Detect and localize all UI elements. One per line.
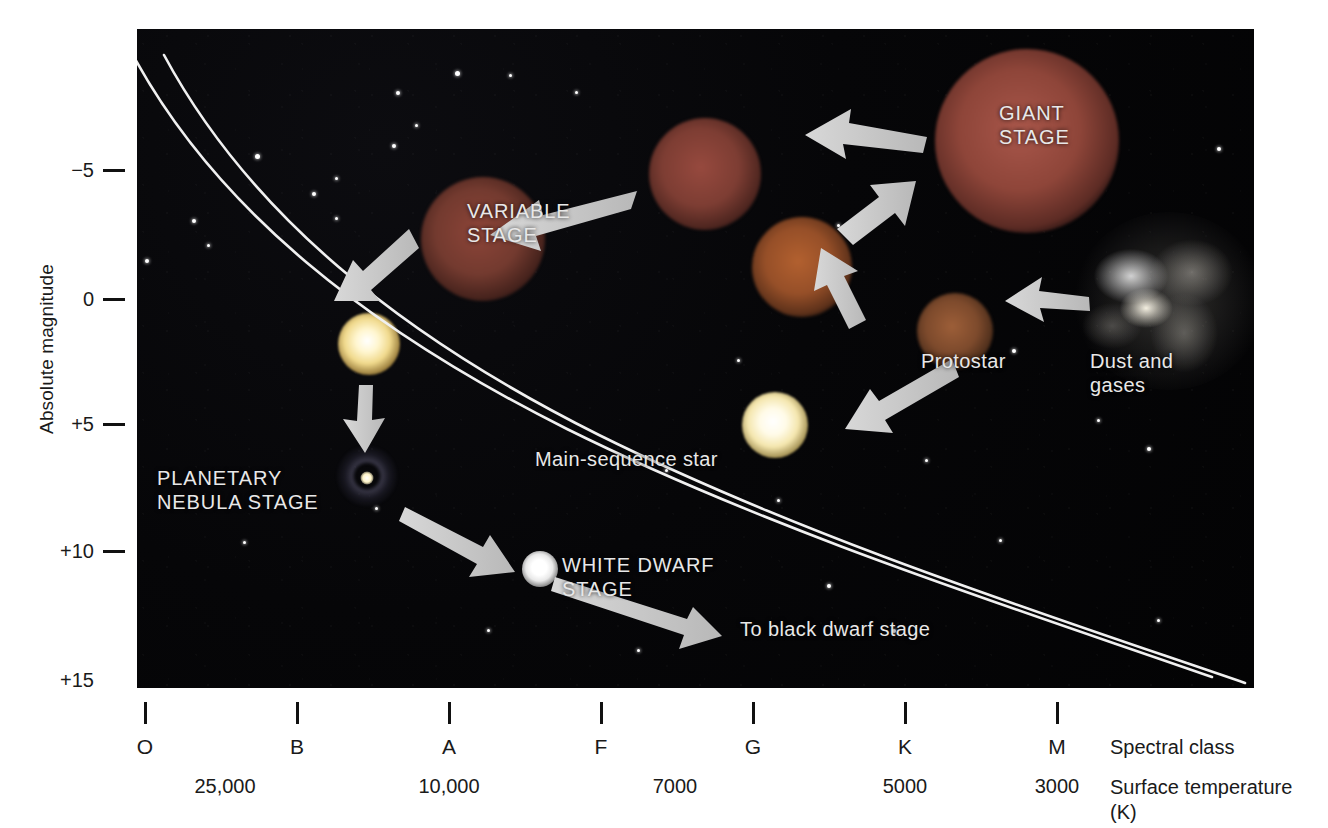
y-tick-label: +10: [60, 540, 94, 563]
background-star: [509, 74, 512, 77]
dust-and-gases-label: Dust and gases: [1090, 349, 1173, 398]
background-star: [392, 144, 396, 148]
white-dwarf-star: [522, 551, 558, 587]
x-temp-label-3000: 3000: [1035, 775, 1080, 798]
variable-stage-label: VARIABLE STAGE: [467, 199, 571, 248]
x-temp-label-7000: 7000: [653, 775, 698, 798]
y-tick-plus10: +10: [20, 539, 125, 563]
background-star: [1012, 349, 1016, 353]
arrow-giant-to-variable-giant: [805, 109, 927, 159]
background-star: [999, 539, 1002, 542]
background-star: [487, 629, 490, 632]
planetary-nebula-label: PLANETARY NEBULA STAGE: [157, 466, 319, 515]
protostar-label: Protostar: [921, 349, 1006, 373]
x-temp-label-10000: 10,000: [418, 775, 479, 798]
background-star: [335, 177, 338, 180]
background-star: [637, 649, 640, 652]
background-star: [455, 71, 460, 76]
spectral-class-caption: Spectral class: [1110, 735, 1235, 760]
x-class-label-M: M: [1048, 735, 1066, 759]
background-star: [777, 499, 780, 502]
main-sequence-star: [742, 392, 808, 458]
y-tick-label: +15: [60, 669, 94, 692]
background-star: [1217, 147, 1221, 151]
planetary-nebula-core-star: [361, 472, 374, 485]
background-star: [837, 224, 840, 227]
background-star: [255, 154, 260, 159]
white-dwarf-label: WHITE DWARF STAGE: [562, 553, 714, 602]
background-star: [925, 459, 928, 462]
x-tick-mark-B: [296, 702, 299, 724]
background-star: [335, 217, 338, 220]
background-star: [1097, 419, 1100, 422]
x-tick-mark-O: [144, 702, 147, 724]
y-tick-label: −5: [71, 159, 94, 182]
background-star: [575, 91, 578, 94]
surface-temperature-caption: Surface temperature (K): [1110, 775, 1292, 825]
hot-white-star: [338, 313, 400, 375]
y-tick-minus5: −5: [20, 158, 125, 182]
surface-temperature-caption-line1: Surface temperature: [1110, 776, 1292, 798]
background-star: [396, 91, 400, 95]
y-tick-label: 0: [83, 288, 94, 311]
y-tick-plus5: +5: [20, 412, 125, 436]
y-tick-dash: [103, 679, 125, 682]
x-tick-mark-M: [1056, 702, 1059, 724]
x-temp-label-25000: 25,000: [194, 775, 255, 798]
y-tick-dash: [103, 423, 125, 426]
x-tick-mark-A: [448, 702, 451, 724]
background-star: [827, 584, 831, 588]
surface-temperature-caption-line2: (K): [1110, 801, 1137, 823]
diagram-panel: GIANT STAGE VARIABLE STAGE Protostar Dus…: [137, 29, 1254, 688]
y-tick-0: 0: [20, 287, 125, 311]
background-star: [1147, 447, 1151, 451]
background-star: [145, 259, 149, 263]
arrow-variable-to-hot-star: [334, 229, 419, 301]
background-star: [312, 192, 316, 196]
x-tick-mark-F: [600, 702, 603, 724]
x-class-label-K: K: [898, 735, 912, 759]
x-tick-mark-G: [752, 702, 755, 724]
arrow-nebula-to-white-dwarf: [399, 507, 515, 577]
x-class-label-A: A: [442, 735, 456, 759]
background-star: [737, 359, 740, 362]
background-star: [243, 541, 246, 544]
background-star: [1157, 619, 1160, 622]
arrow-orange-giant-to-giant: [837, 181, 916, 245]
main-sequence-star-label: Main-sequence star: [535, 447, 718, 471]
x-tick-mark-K: [904, 702, 907, 724]
black-dwarf-label: To black dwarf stage: [740, 617, 930, 641]
background-star: [192, 219, 196, 223]
x-class-label-G: G: [745, 735, 761, 759]
x-class-label-O: O: [137, 735, 153, 759]
y-tick-dash: [103, 298, 125, 301]
y-tick-dash: [103, 550, 125, 553]
y-tick-dash: [103, 169, 125, 172]
hr-diagram-figure: Absolute magnitude −5 0 +5 +10 +15: [0, 0, 1328, 828]
orange-giant-star: [752, 217, 852, 317]
giant-stage-label: GIANT STAGE: [999, 101, 1070, 150]
y-tick-plus15: +15: [20, 668, 125, 692]
variable-giant-star: [649, 118, 761, 230]
x-temp-label-5000: 5000: [883, 775, 928, 798]
x-class-label-B: B: [290, 735, 304, 759]
background-star: [415, 124, 418, 127]
x-class-label-F: F: [595, 735, 608, 759]
y-tick-label: +5: [71, 413, 94, 436]
background-star: [207, 244, 210, 247]
